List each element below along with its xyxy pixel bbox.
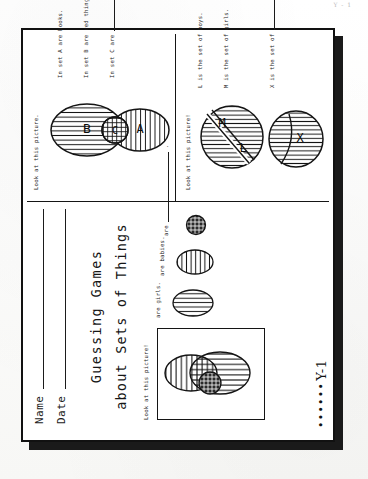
panel-lmx: Look at this picture! [183, 34, 327, 192]
x-set-diagram: X [267, 104, 325, 174]
panel-abc-answer-blank[interactable] [109, 0, 115, 31]
panel-sets-picture-frame [157, 328, 265, 420]
panel1-item-babies [175, 248, 215, 276]
panel-abc-statement-a: In set A are books. [57, 9, 63, 78]
rotated-document-content: Name Date Guessing Games about Sets of T… [23, 30, 333, 440]
panel-abc: Look at this picture. [31, 34, 171, 192]
panel-lmx-statement-m: M is the set of girls. [223, 8, 229, 88]
name-field-row: Name [33, 209, 46, 424]
panel1-statement-blank-text: are [163, 225, 169, 236]
worksheet-title-line2: about Sets of Things [109, 209, 134, 424]
page-number-marker: •••••• Y-1 [314, 360, 329, 428]
girls-set-ellipse [171, 288, 215, 318]
panel-lmx-statement-x-text: X is the set of [269, 34, 275, 88]
horizontal-divider-rule [175, 34, 176, 202]
panel1-item-girls [171, 288, 215, 318]
set-a-label: A [136, 122, 144, 136]
set-l-label: L [239, 141, 246, 155]
top-edge-ghost-text: Y - 1 [333, 1, 352, 8]
worksheet-header: Name Date Guessing Games about Sets of T… [33, 209, 134, 424]
date-field-row: Date [55, 209, 68, 424]
overlapping-sets-diagram [158, 327, 266, 419]
date-field-label: Date [55, 396, 68, 425]
page-number-text: Y-1 [314, 360, 329, 381]
page-marker-dots: •••••• [316, 382, 327, 428]
panel-sets-picture-prompt: Look at this picture! [143, 344, 149, 420]
x-set-svg: X [267, 104, 325, 174]
vertical-divider-rule [27, 201, 329, 202]
lm-sets-svg: L M [199, 98, 265, 176]
intersection-circle-crosshatched [199, 372, 221, 394]
panel-abc-statement-b: In set B are red things. [83, 0, 89, 78]
worksheet-title-line1: Guessing Games [84, 209, 109, 424]
panel-lmx-statement-x: X is the set of . [269, 0, 275, 88]
worksheet-title: Guessing Games about Sets of Things [84, 209, 134, 424]
name-field-label: Name [33, 396, 46, 425]
panel-lmx-prompt: Look at this picture! [185, 114, 191, 190]
set-x-label: X [296, 131, 304, 145]
name-field-rule[interactable] [43, 209, 44, 390]
panel1-statement-girls: are girls. [155, 282, 161, 318]
set-c-label: C [112, 125, 118, 136]
set-b-label: B [83, 121, 91, 136]
set-m-label: M [218, 116, 225, 130]
babies-set-ellipse [175, 248, 215, 276]
abc-venn-svg: B A C [47, 90, 171, 170]
panel-lmx-answer-blank[interactable] [269, 0, 275, 30]
date-field-rule[interactable] [65, 209, 66, 390]
panel1-statement-babies: are babies. [159, 236, 165, 276]
panel-abc-statement-c: In set C are . [109, 0, 115, 78]
panel-abc-statement-c-text: In set C are [109, 35, 115, 78]
worksheet-page: Name Date Guessing Games about Sets of T… [21, 28, 335, 442]
panel1-item-blank [185, 214, 207, 236]
panel-abc-prompt: Look at this picture. [33, 114, 39, 190]
lm-sets-diagram: L M [199, 98, 265, 176]
abc-venn-diagram: B A C [47, 90, 171, 170]
panel-lmx-statement-l: L is the set of boys. [197, 12, 203, 88]
unknown-set-circle [185, 214, 207, 236]
scanned-page-screenshot: Y - 1 Name Date Guessing Games a [0, 0, 368, 479]
panel-sets-picture: Look at this picture! [141, 210, 323, 422]
